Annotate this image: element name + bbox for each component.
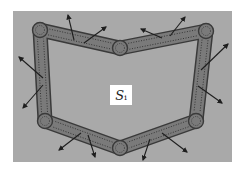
region-label-main: S bbox=[115, 88, 124, 103]
joint-node-icon bbox=[189, 114, 204, 129]
region-label: Si bbox=[110, 85, 132, 105]
joint-node-icon bbox=[38, 114, 53, 129]
joint-node-icon bbox=[113, 41, 128, 56]
joint-node-icon bbox=[199, 24, 214, 39]
joint-node-icon bbox=[113, 141, 128, 156]
joint-node-icon bbox=[33, 23, 48, 38]
region-label-subscript: i bbox=[124, 93, 127, 102]
